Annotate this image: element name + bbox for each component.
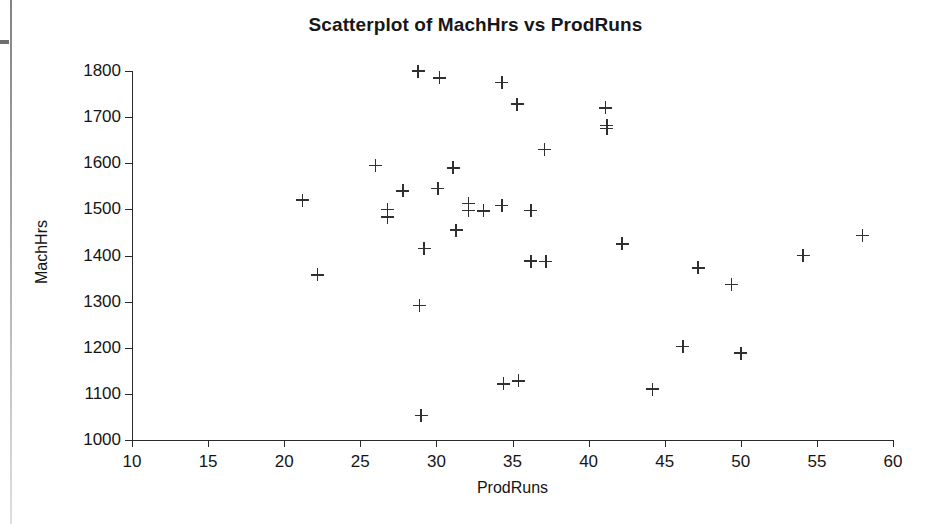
data-point <box>600 122 613 135</box>
x-tick-50 <box>741 440 742 447</box>
y-tick-label-1100: 1100 <box>84 384 121 404</box>
data-point <box>413 299 426 312</box>
x-tick-label-30: 30 <box>427 452 446 472</box>
data-point <box>433 71 446 84</box>
data-point <box>477 204 490 217</box>
x-tick-30 <box>436 440 437 447</box>
plot-area: 100011001200130014001500160017001800 101… <box>132 71 893 440</box>
y-tick-1800 <box>125 71 132 72</box>
y-tick-label-1500: 1500 <box>83 199 121 219</box>
data-point <box>511 98 524 111</box>
data-point <box>599 101 612 114</box>
y-tick-label-1800: 1800 <box>83 61 121 81</box>
y-tick-1700 <box>125 117 132 118</box>
x-tick-label-55: 55 <box>807 452 826 472</box>
x-tick-20 <box>284 440 285 447</box>
data-point <box>797 249 810 262</box>
x-tick-label-20: 20 <box>275 452 294 472</box>
x-tick-label-35: 35 <box>503 452 522 472</box>
data-point <box>725 278 738 291</box>
x-axis-label: ProdRuns <box>132 479 893 497</box>
data-point <box>418 242 431 255</box>
data-point <box>692 261 705 274</box>
data-point <box>412 65 425 78</box>
x-tick-label-45: 45 <box>655 452 674 472</box>
x-tick-15 <box>208 440 209 447</box>
chart-title: Scatterplot of MachHrs vs ProdRuns <box>0 14 951 36</box>
data-point <box>616 237 629 250</box>
y-tick-1200 <box>125 348 132 349</box>
data-point <box>734 347 747 360</box>
x-tick-25 <box>360 440 361 447</box>
data-point <box>369 159 382 172</box>
data-point <box>524 255 537 268</box>
y-tick-1100 <box>125 394 132 395</box>
y-tick-label-1300: 1300 <box>83 292 121 312</box>
y-tick-1000 <box>125 440 132 441</box>
data-point <box>524 204 537 217</box>
data-point <box>415 409 428 422</box>
data-point <box>431 182 444 195</box>
y-axis-label: MachHrs <box>32 180 52 320</box>
data-point <box>676 340 689 353</box>
data-point <box>539 255 552 268</box>
data-point <box>396 184 409 197</box>
data-point <box>381 211 394 224</box>
data-point <box>646 383 659 396</box>
x-tick-label-10: 10 <box>123 452 142 472</box>
data-point <box>381 203 394 216</box>
data-point <box>450 224 463 237</box>
data-point <box>497 377 510 390</box>
x-tick-label-40: 40 <box>579 452 598 472</box>
data-point <box>512 374 525 387</box>
data-point <box>462 204 475 217</box>
x-tick-label-25: 25 <box>351 452 370 472</box>
x-tick-35 <box>513 440 514 447</box>
data-point <box>296 194 309 207</box>
y-tick-1300 <box>125 302 132 303</box>
y-tick-label-1700: 1700 <box>83 107 121 127</box>
y-tick-label-1000: 1000 <box>83 430 121 450</box>
x-tick-45 <box>665 440 666 447</box>
data-point <box>311 268 324 281</box>
x-tick-label-50: 50 <box>731 452 750 472</box>
y-axis-label-text: MachHrs <box>33 182 51 322</box>
y-tick-label-1400: 1400 <box>83 246 121 266</box>
x-tick-60 <box>893 440 894 447</box>
y-tick-label-1600: 1600 <box>83 153 121 173</box>
data-point <box>600 119 613 132</box>
data-point <box>495 199 508 212</box>
data-point <box>462 197 475 210</box>
x-tick-55 <box>817 440 818 447</box>
y-tick-1600 <box>125 163 132 164</box>
y-tick-1500 <box>125 209 132 210</box>
data-point <box>495 76 508 89</box>
x-tick-label-15: 15 <box>199 452 218 472</box>
y-tick-1400 <box>125 256 132 257</box>
y-tick-label-1200: 1200 <box>83 338 121 358</box>
scatterplot-figure: Scatterplot of MachHrs vs ProdRuns MachH… <box>0 0 951 524</box>
x-tick-label-60: 60 <box>884 452 903 472</box>
data-point <box>538 143 551 156</box>
data-point <box>856 229 869 242</box>
data-point <box>447 161 460 174</box>
x-tick-40 <box>589 440 590 447</box>
x-tick-10 <box>132 440 133 447</box>
